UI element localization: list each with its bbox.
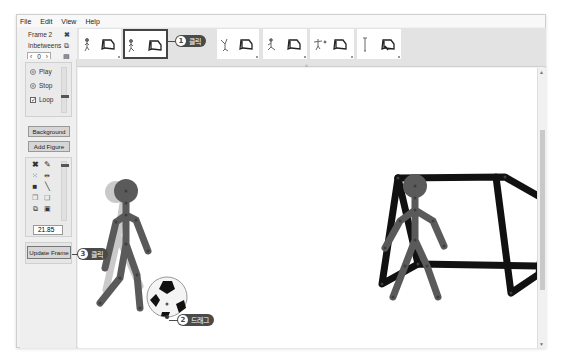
slider-knob[interactable] [61,95,69,98]
copy-frame-icon[interactable]: ⧉ [63,42,70,49]
update-frame-button[interactable]: Update Frame [27,246,71,259]
timeline-frame-5[interactable] [310,29,354,59]
scroll-down-icon[interactable]: ▼ [539,341,544,347]
vertical-scrollbar[interactable]: ▲ ▼ [537,68,546,348]
inbetweens-label: Inbetweens [28,42,61,49]
drawing-canvas[interactable] [78,68,537,348]
add-figure-button[interactable]: Add Figure [28,141,70,152]
menu-edit[interactable]: Edit [40,18,52,25]
callout-number: 3 [78,249,88,259]
frame-thumbnail-icon [125,31,166,57]
center-icon[interactable]: ⁙ [31,172,39,180]
frame-thumbnail-icon [79,29,121,59]
color-square-icon[interactable]: ■ [31,183,39,191]
timeline-frame-6[interactable] [357,29,401,59]
playback-group: Play Stop ✓ Loop [25,62,72,117]
scroll-up-icon[interactable]: ▲ [539,69,544,75]
speed-slider[interactable] [61,67,67,113]
front-icon[interactable]: ⧉ [31,205,39,213]
frame-marker [118,56,120,58]
slider-knob[interactable] [61,164,69,167]
callout-2: 2 드래그 [177,314,214,326]
app-window: File Edit View Help Frame 2 Inbetweens ‹… [16,14,546,348]
timeline-frame-2[interactable] [123,29,168,59]
loop-checkbox[interactable]: ✓ Loop [30,96,53,103]
frame-marker [398,56,400,58]
frame-marker [304,56,306,58]
play-radio[interactable]: Play [30,68,52,75]
timeline-frame-3[interactable] [217,29,259,59]
delete-icon[interactable]: ✖ [31,161,39,169]
play-label: Play [39,68,52,75]
stage-svg [78,68,537,348]
menu-bar: File Edit View Help [17,15,545,27]
frame-thumbnail-icon [357,29,401,59]
scale-slider[interactable] [61,161,67,221]
line-tool-icon[interactable]: ╲ [43,183,51,191]
copy-figure-icon[interactable]: ❐ [31,194,39,202]
menu-view[interactable]: View [61,18,76,25]
callout-3: 3 클릭 [77,248,108,260]
scroll-thumb[interactable] [540,130,545,290]
callout-text: 드래그 [191,315,209,325]
menu-help[interactable]: Help [85,18,99,25]
flip-icon[interactable]: ⇹ [43,172,51,180]
frame-marker [351,56,353,58]
frame-thumbnail-icon [263,29,307,59]
timeline: ˅ [77,28,546,67]
callout-leader-1 [168,41,175,42]
frame-thumbnail-icon [217,29,259,59]
callout-text: 클릭 [189,36,201,46]
timeline-frame-4[interactable] [263,29,307,59]
callout-1: 1 클릭 [175,35,206,47]
stop-label: Stop [39,82,52,89]
frame-label: Frame 2 [28,31,52,38]
left-panel: Play Stop ✓ Loop Background Add Figure ✖… [20,59,77,348]
loop-label: Loop [39,96,53,103]
goal-figure [382,177,537,293]
callout-number: 1 [176,36,186,46]
stop-radio[interactable]: Stop [30,82,52,89]
soccer-ball-icon [147,277,187,319]
delete-frame-icon[interactable]: ✖ [63,31,70,38]
scale-value-field[interactable]: 21.85 [33,225,63,235]
pencil-icon[interactable]: ✎ [43,161,51,169]
background-button[interactable]: Background [28,126,70,137]
callout-text: 클릭 [91,249,103,259]
timeline-frame-1[interactable] [79,29,121,59]
checkbox-icon[interactable]: ✓ [30,97,36,103]
menu-file[interactable]: File [20,18,31,25]
paste-figure-icon[interactable]: ❏ [43,194,51,202]
frame-thumbnail-icon [310,29,354,59]
radio-icon[interactable] [30,83,36,89]
callout-number: 2 [178,315,188,325]
radio-icon[interactable] [30,69,36,75]
frame-marker [256,56,258,58]
back-icon[interactable]: ▣ [43,205,51,213]
